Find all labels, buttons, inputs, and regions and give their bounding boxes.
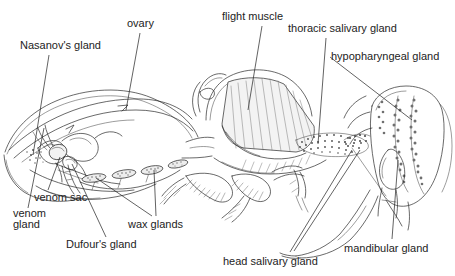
mandibular-gland	[378, 149, 405, 218]
abdomen	[4, 90, 198, 201]
leader-nasanovs-gland	[33, 55, 49, 155]
wax-gland-plate	[167, 158, 188, 169]
wax-gland-plate	[112, 168, 137, 180]
wax-gland-plate	[140, 164, 163, 176]
leader-wax-glands-b	[154, 170, 156, 216]
gland-acini-left	[393, 99, 406, 184]
label-venom-sac: venom sac	[34, 192, 87, 204]
leader-head-salivary-b	[290, 150, 352, 252]
leader-wax-glands-a	[96, 178, 152, 216]
label-dufours-gland: Dufour's gland	[66, 239, 137, 251]
hypopharyngeal-lobes	[378, 96, 424, 194]
label-ovary: ovary	[127, 18, 154, 30]
wax-gland-plates	[82, 158, 189, 183]
gland-acini-anterior	[378, 101, 386, 135]
leader-head-salivary	[294, 150, 360, 251]
label-thoracic-salivary-gland: thoracic salivary gland	[288, 23, 397, 35]
label-mandibular-gland: mandibular gland	[344, 243, 428, 255]
diagram-canvas: Nasanov's gland ovary flight muscle thor…	[0, 0, 455, 276]
label-hypopharyngeal-gland: hypopharyngeal gland	[331, 51, 439, 63]
leader-thoracic-salivary	[318, 38, 326, 144]
sting-apparatus	[33, 125, 86, 194]
thorax	[193, 70, 326, 174]
legs	[160, 166, 308, 222]
label-nasanovs-gland: Nasanov's gland	[20, 40, 101, 52]
leader-venom-sac	[48, 157, 60, 190]
label-wax-glands: wax glands	[128, 219, 183, 231]
petiole	[182, 137, 214, 158]
label-venom-gland-line2: gland	[13, 219, 40, 231]
label-flight-muscle: flight muscle	[222, 11, 283, 23]
label-head-salivary-gland: head salivary gland	[223, 256, 318, 268]
